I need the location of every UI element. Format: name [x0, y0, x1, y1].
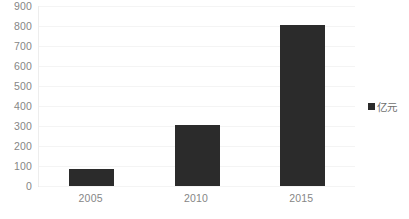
y-axis-tick-label: 200 [14, 140, 32, 152]
x-axis-tick-label: 2010 [184, 192, 208, 204]
bar [175, 125, 220, 186]
bar [280, 25, 325, 186]
bar [69, 169, 114, 186]
y-axis-tick-label: 900 [14, 0, 32, 12]
bar-chart: 0100200300400500600700800900 20052010201… [0, 0, 409, 219]
x-axis: 200520102015 [38, 190, 355, 210]
y-axis-tick-label: 400 [14, 100, 32, 112]
y-axis-tick-label: 300 [14, 120, 32, 132]
y-axis-tick-label: 800 [14, 20, 32, 32]
y-axis: 0100200300400500600700800900 [0, 0, 36, 190]
y-axis-tick-label: 0 [26, 180, 32, 192]
chart-legend: 亿元 [368, 99, 397, 114]
x-axis-tick-label: 2005 [79, 192, 103, 204]
legend-swatch-icon [368, 103, 375, 110]
legend-item-label: 亿元 [377, 99, 397, 114]
y-axis-tick-label: 600 [14, 60, 32, 72]
plot-area [38, 6, 355, 187]
y-axis-tick-label: 500 [14, 80, 32, 92]
y-axis-tick-label: 700 [14, 40, 32, 52]
y-axis-tick-label: 100 [14, 160, 32, 172]
bars-layer [39, 6, 355, 186]
x-axis-tick-label: 2015 [289, 192, 313, 204]
gridline [39, 186, 355, 187]
